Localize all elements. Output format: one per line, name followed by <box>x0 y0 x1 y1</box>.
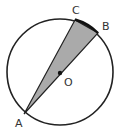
label-c: C <box>72 4 80 17</box>
label-o: O <box>64 76 73 89</box>
circle-diagram: C B O A <box>0 0 117 132</box>
center-point-o <box>58 71 62 75</box>
shaded-triangle-acb <box>24 20 98 114</box>
label-b: B <box>102 20 110 33</box>
label-a: A <box>15 117 23 130</box>
